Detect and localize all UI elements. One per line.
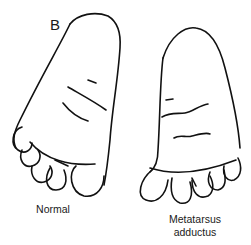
panel-label: B [50, 16, 60, 33]
metatarsus-adductus-foot-drawing [140, 28, 240, 204]
caption-line-2: adductus [160, 226, 230, 239]
normal-caption: Normal [28, 203, 78, 216]
metatarsus-adductus-caption: Metatarsus adductus [160, 213, 230, 239]
caption-line-1: Metatarsus [160, 213, 230, 226]
foot-comparison-figure: B Normal Metatarsus adductus [0, 0, 251, 245]
normal-foot-drawing [13, 14, 120, 197]
